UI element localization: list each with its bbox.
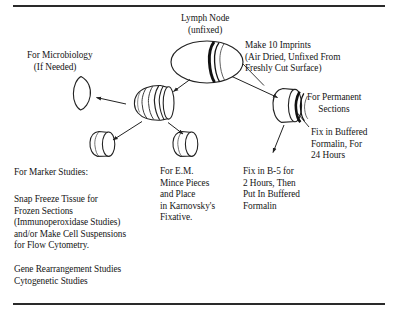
microbiology-sliver-shape [73, 77, 90, 111]
label-fix-in-b5: Fix in B-5 for 2 Hours, Then Put In Buff… [243, 166, 300, 212]
label-fix-in-buffered-formalin: Fix in Buffered Formalin, For 24 Hours [311, 127, 367, 162]
label-for-marker-studies-heading: For Marker Studies: [14, 167, 88, 179]
arrow-node-to-central-block [174, 80, 191, 92]
label-for-electron-microscopy: For E.M. Mince Pieces and Place in Karno… [160, 166, 215, 224]
label-lymph-node: Lymph Node (unfixed) [181, 13, 229, 36]
marker-study-disc-shape [90, 132, 115, 157]
label-gene-rearrangement-studies: Gene Rearrangement Studies Cytogenetic S… [14, 264, 121, 287]
lymph-node-processing-figure: Lymph Node (unfixed) For Microbiology (I… [0, 0, 400, 319]
label-make-10-imprints: Make 10 Imprints (Air Dried, Unfixed Fro… [245, 40, 340, 75]
permanent-section-block-shape [273, 89, 308, 123]
arrow-central-to-em-disc [168, 123, 183, 135]
arrow-permanent-to-b5 [273, 125, 284, 153]
arrow-central-to-microbiology [97, 98, 127, 105]
label-for-permanent-sections: For Permanent Sections [307, 92, 361, 115]
label-marker-studies-detail: Snap Freeze Tissue for Frozen Sections (… [14, 194, 126, 252]
arrow-node-to-permanent-block [232, 77, 278, 98]
central-sliced-block-shape [134, 85, 174, 120]
label-for-microbiology: For Microbiology (If Needed) [27, 50, 93, 73]
em-disc-shape [173, 132, 198, 157]
leader-marker-bracket [30, 150, 44, 161]
arrow-central-to-marker-disc [113, 122, 142, 141]
